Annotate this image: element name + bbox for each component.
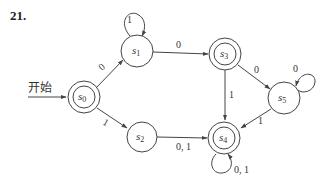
state-diagram: 开始 0 1 1 0 0 1 0 1 0, 1 0, 1 s0 s1 s2	[0, 0, 330, 181]
edge-label-s5-loop: 0	[293, 63, 298, 74]
edge-s4-loop	[212, 154, 232, 173]
edge-label-s0-s1: 0	[96, 61, 107, 73]
edge-label-s5-s4: 1	[258, 115, 263, 126]
edge-label-s1-loop: 1	[127, 14, 132, 25]
state-s2: s2	[127, 122, 157, 152]
edge-s2-s4	[157, 137, 207, 138]
edge-s5-loop	[296, 74, 315, 92]
state-s5: s5	[268, 82, 300, 114]
start-label: 开始	[28, 81, 52, 95]
edge-label-s1-s3: 0	[176, 39, 181, 50]
edge-s1-s3	[153, 52, 208, 54]
state-s3: s3	[209, 38, 241, 70]
edge-s5-s4	[241, 109, 271, 128]
state-s0: s0	[68, 81, 100, 113]
edge-label-s3-s5: 0	[254, 64, 259, 75]
edge-label-s3-s4: 1	[229, 89, 234, 100]
state-s4: s4	[208, 122, 240, 154]
edge-label-s0-s2: 1	[101, 116, 111, 128]
edge-label-s2-s4: 0, 1	[176, 141, 191, 152]
edge-label-s4-loop: 0, 1	[234, 164, 249, 175]
state-s1: s1	[121, 35, 153, 67]
